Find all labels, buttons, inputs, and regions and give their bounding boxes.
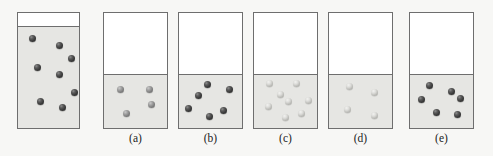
caption-label: (d) [328,132,393,144]
particle-b-2 [226,86,233,93]
particle-d-4 [371,112,378,119]
liquid-b [179,74,242,128]
container-e [409,12,474,129]
container-c [253,12,318,129]
headspace-a [104,13,167,73]
container-a [103,12,168,129]
particle-e-4 [457,95,464,102]
particle-reference-8 [59,104,66,111]
particle-d-2 [371,89,378,96]
headspace-d [329,13,392,73]
headspace-b [179,13,242,73]
particle-c-6 [265,103,272,110]
caption-label: (c) [253,132,318,144]
particle-e-5 [433,109,440,116]
particle-a-1 [117,86,124,93]
particle-e-2 [448,88,455,95]
particle-e-1 [426,82,433,89]
caption-label: (e) [409,132,474,144]
particle-reference-3 [68,55,75,62]
particle-c-4 [285,98,292,105]
particle-reference-7 [37,98,44,105]
particle-b-4 [185,105,192,112]
particle-reference-4 [34,64,41,71]
particle-a-3 [148,101,155,108]
headspace-e [410,13,473,73]
particle-c-5 [305,97,312,104]
particle-e-6 [454,111,461,118]
particle-b-3 [195,92,202,99]
caption-label: (b) [178,132,243,144]
particle-reference-6 [71,89,78,96]
particle-d-3 [344,106,351,113]
particle-c-2 [293,80,300,87]
liquid-reference [18,26,79,128]
particle-a-2 [146,86,153,93]
particle-c-8 [282,114,289,121]
particle-a-4 [123,110,130,117]
particle-d-1 [346,83,353,90]
particle-reference-5 [56,71,63,78]
caption-label: (a) [103,132,168,144]
headspace-c [254,13,317,73]
liquid-d [329,74,392,128]
particle-e-3 [418,96,425,103]
container-b [178,12,243,129]
particle-c-7 [298,110,305,117]
particle-c-1 [266,80,273,87]
particle-reference-1 [29,35,36,42]
headspace-reference [18,13,79,25]
particle-b-5 [220,107,227,114]
container-reference [17,12,80,129]
particle-diagram-figure: (a)(b)(c)(d)(e) [0,0,493,156]
liquid-a [104,74,167,128]
particle-b-6 [206,113,213,120]
container-d [328,12,393,129]
particle-b-1 [204,81,211,88]
particle-c-3 [277,91,284,98]
particle-reference-2 [56,42,63,49]
